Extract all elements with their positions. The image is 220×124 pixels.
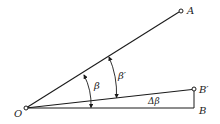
beta-prime-arc	[109, 57, 117, 98]
point-B-prime	[192, 87, 196, 91]
angle-diagram: O A B′ B β β′ Δβ	[0, 0, 220, 124]
label-O: O	[14, 108, 22, 119]
label-beta: β	[93, 80, 100, 91]
label-B-prime: B′	[198, 84, 209, 95]
label-delta-beta: Δβ	[147, 96, 160, 106]
label-A: A	[186, 5, 194, 16]
label-beta-prime: β′	[117, 70, 127, 81]
label-B: B	[198, 105, 206, 116]
point-A	[179, 9, 183, 13]
beta-arc	[84, 75, 91, 108]
point-O	[24, 106, 28, 110]
